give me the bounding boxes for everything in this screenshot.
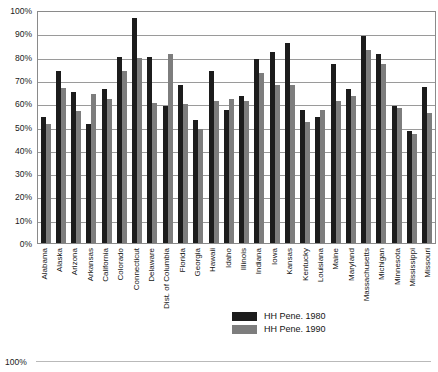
bar (259, 73, 264, 243)
x-axis-tick-label: Michigan (378, 248, 386, 280)
bar-group (69, 12, 84, 243)
bar-group (343, 12, 358, 243)
next-chart-peek: 100% (0, 358, 438, 372)
chart-legend: HH Pene. 1980HH Pene. 1990 (232, 312, 326, 334)
bar (152, 103, 157, 243)
x-axis-tick: Arizona (68, 246, 83, 346)
x-axis-tick: Hawaii (206, 246, 221, 346)
x-axis-tick: Michigan (375, 246, 390, 346)
bar-group (404, 12, 419, 243)
x-axis-tick-label: Florida (179, 248, 187, 272)
x-axis-tick: California (98, 246, 113, 346)
bar-group (236, 12, 251, 243)
bar (336, 101, 341, 243)
x-axis-tick-label: Iowa (271, 248, 279, 265)
bar-group (38, 12, 53, 243)
x-axis-tick-label: Arkansas (87, 248, 95, 281)
bar (168, 54, 173, 243)
y-axis-tick-label: 0% (20, 240, 32, 248)
y-axis-tick-label: 20% (15, 193, 32, 201)
x-axis-tick: Missouri (421, 246, 436, 346)
x-axis-tick-label: Louisiana (317, 248, 325, 282)
bar-group (374, 12, 389, 243)
legend-label: HH Pene. 1990 (264, 325, 326, 334)
x-axis-tick: Maryland (344, 246, 359, 346)
bar-group (206, 12, 221, 243)
x-axis-tick: Maine (329, 246, 344, 346)
x-axis-tick: Mississippi (405, 246, 420, 346)
x-axis-tick: Florida (175, 246, 190, 346)
bar (198, 129, 203, 243)
bar-group (221, 12, 236, 243)
y-axis-tick-label: 10% (15, 217, 32, 225)
bar-group (114, 12, 129, 243)
x-axis-tick-label: Maine (332, 248, 340, 270)
x-axis-tick-label: Kansas (286, 248, 294, 275)
y-axis-tick-label: 30% (15, 170, 32, 178)
x-axis-tick: Alaska (52, 246, 67, 346)
bar (366, 50, 371, 243)
bar-group (420, 12, 435, 243)
bar (46, 124, 51, 243)
plot-area (37, 11, 436, 244)
y-axis-tick-label: 70% (15, 77, 32, 85)
bar (214, 101, 219, 243)
x-axis-tick-label: Alaska (56, 248, 64, 272)
x-axis-tick: Massachusetts (359, 246, 374, 346)
bar (122, 71, 127, 243)
x-axis-tick-label: Arizona (71, 248, 79, 275)
bar-group (145, 12, 160, 243)
bar-group (328, 12, 343, 243)
legend-label: HH Pene. 1980 (264, 312, 326, 321)
y-axis-tick-label: 60% (15, 100, 32, 108)
x-axis-tick: Alabama (37, 246, 52, 346)
x-axis-tick: Colorado (114, 246, 129, 346)
next-chart-gridline (36, 361, 431, 362)
bar (412, 134, 417, 244)
bar (320, 110, 325, 243)
x-axis-tick: Georgia (190, 246, 205, 346)
household-penetration-bar-chart: 100%90%80%70%60%50%40%30%20%10%0% Alabam… (0, 0, 438, 372)
bar (397, 108, 402, 243)
legend-swatch (232, 312, 257, 321)
y-axis-tick-label: 40% (15, 147, 32, 155)
x-axis-tick-label: Delaware (148, 248, 156, 282)
bar (76, 111, 81, 243)
y-axis-tick-label: 80% (15, 54, 32, 62)
bar-group (313, 12, 328, 243)
bar (229, 99, 234, 243)
x-axis-tick-label: Maryland (348, 248, 356, 281)
y-axis-tick-label: 50% (15, 124, 32, 132)
x-axis-tick-label: Alabama (41, 248, 49, 280)
bar (183, 104, 188, 243)
bar (61, 88, 66, 243)
bar (91, 94, 96, 243)
bar (427, 113, 432, 243)
bar-group (84, 12, 99, 243)
x-axis-tick-label: California (102, 248, 110, 282)
x-axis-tick-label: Missouri (424, 248, 432, 278)
bar-group (252, 12, 267, 243)
bar-group (130, 12, 145, 243)
x-axis-tick-label: Indiana (255, 248, 263, 274)
bar (351, 96, 356, 243)
legend-item[interactable]: HH Pene. 1980 (232, 312, 326, 321)
bar (244, 101, 249, 243)
legend-item[interactable]: HH Pene. 1990 (232, 325, 326, 334)
bar (381, 64, 386, 243)
bar-group (191, 12, 206, 243)
legend-swatch (232, 325, 257, 334)
bars-layer (38, 12, 435, 243)
x-axis-tick-label: Illinois (240, 248, 248, 270)
bar (305, 122, 310, 243)
x-axis-tick-label: Mississippi (409, 248, 417, 287)
x-axis-tick: Delaware (144, 246, 159, 346)
bar-group (359, 12, 374, 243)
x-axis-tick-label: Connecticut (133, 248, 141, 290)
bar (275, 85, 280, 243)
bar (107, 99, 112, 243)
x-axis-tick-label: Hawaii (209, 248, 217, 272)
y-axis: 100%90%80%70%60%50%40%30%20%10%0% (0, 0, 35, 250)
x-axis-tick-label: Georgia (194, 248, 202, 276)
y-axis-tick-label: 100% (10, 7, 32, 15)
